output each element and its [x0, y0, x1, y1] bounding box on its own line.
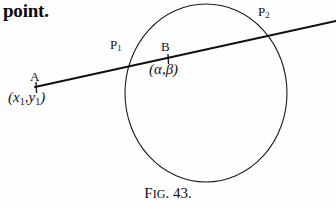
point-label-p1-subscript: 1: [117, 43, 121, 53]
figure-caption: FIG. 43.: [0, 185, 336, 202]
figure-caption-prefix: F: [144, 185, 152, 201]
point-label-p1: P1: [110, 38, 122, 53]
point-label-a: A: [30, 70, 39, 83]
figure-page: point. P1 P2 A B (x1,y1) (α,β) FIG. 43.: [0, 0, 336, 207]
figure-caption-number: . 43.: [165, 185, 191, 201]
secant-line: [35, 21, 336, 87]
point-label-p2-subscript: 2: [265, 10, 269, 20]
figure-drawing: [0, 0, 336, 207]
paren-close: ): [40, 89, 45, 105]
circle-shape: [125, 4, 287, 182]
point-label-b: B: [161, 40, 170, 53]
var-beta: β: [166, 61, 173, 77]
point-label-p2: P2: [258, 5, 270, 20]
figure-caption-smallcaps: IG: [153, 187, 166, 201]
coordinate-label-a: (x1,y1): [8, 90, 45, 107]
var-x: x: [13, 89, 20, 105]
paren-close: ): [173, 61, 178, 77]
coordinate-label-b: (α,β): [149, 62, 178, 77]
var-alpha: α: [154, 61, 162, 77]
